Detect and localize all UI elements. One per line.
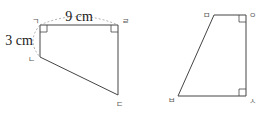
right-angle-mark: [111, 25, 118, 32]
top-length-label: 9 cm: [65, 9, 93, 24]
left-trapezoid: [33, 17, 118, 96]
vertex-label-giyeok: ㄱ: [32, 17, 39, 26]
vertex-label-nieun: ㄴ: [28, 55, 35, 64]
vertex-label-bieup: ㅂ: [168, 96, 175, 105]
right-angle-mark: [239, 89, 246, 96]
left-dimension-arc: [33, 25, 40, 57]
left-length-label: 3 cm: [5, 33, 33, 48]
vertex-label-digeut: ㄷ: [116, 100, 123, 109]
vertex-label-mieum: ㅁ: [203, 11, 210, 20]
vertex-label-siot: ㅅ: [249, 97, 256, 106]
right-trapezoid: [178, 15, 246, 96]
vertex-label-ieung: ㅇ: [249, 11, 256, 20]
right-angle-mark: [239, 15, 246, 22]
right-angle-mark: [40, 25, 47, 32]
diagram-svg: 9 cm 3 cm ㄱ ㄴ ㄷ ㄹ ㅁ ㅇ ㅅ ㅂ: [0, 0, 266, 115]
vertex-label-rieul: ㄹ: [122, 17, 129, 26]
diagram-canvas: 9 cm 3 cm ㄱ ㄴ ㄷ ㄹ ㅁ ㅇ ㅅ ㅂ: [0, 0, 266, 115]
